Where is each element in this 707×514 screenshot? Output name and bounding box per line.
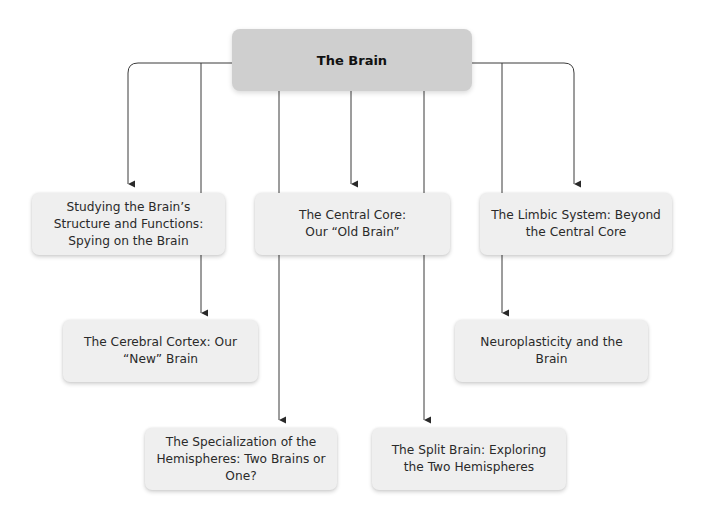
concept-map: The Brain Studying the Brain’s Structure…: [0, 0, 707, 514]
node-cerebral-cortex: The Cerebral Cortex: Our “New” Brain: [63, 320, 258, 382]
root-node: The Brain: [232, 29, 472, 91]
root-node-label: The Brain: [317, 53, 387, 68]
node-limbic-system: The Limbic System: Beyond the Central Co…: [480, 193, 672, 255]
node-label: The Split Brain: Exploring the Two Hemis…: [382, 442, 556, 476]
node-central-core: The Central Core: Our “Old Brain”: [255, 193, 450, 255]
node-label: Neuroplasticity and the Brain: [465, 334, 638, 368]
node-split-brain: The Split Brain: Exploring the Two Hemis…: [372, 428, 566, 490]
node-label: The Central Core: Our “Old Brain”: [265, 207, 440, 241]
node-label: The Cerebral Cortex: Our “New” Brain: [73, 334, 248, 368]
node-label: The Limbic System: Beyond the Central Co…: [490, 207, 662, 241]
node-studying-brain: Studying the Brain’s Structure and Funct…: [32, 193, 225, 255]
node-label: The Specialization of the Hemispheres: T…: [155, 434, 327, 485]
node-neuroplasticity: Neuroplasticity and the Brain: [455, 320, 648, 382]
node-specialization-hemispheres: The Specialization of the Hemispheres: T…: [145, 428, 337, 490]
edge-root-n1: [128, 63, 232, 184]
edge-root-n3: [472, 63, 574, 184]
node-label: Studying the Brain’s Structure and Funct…: [42, 199, 215, 250]
